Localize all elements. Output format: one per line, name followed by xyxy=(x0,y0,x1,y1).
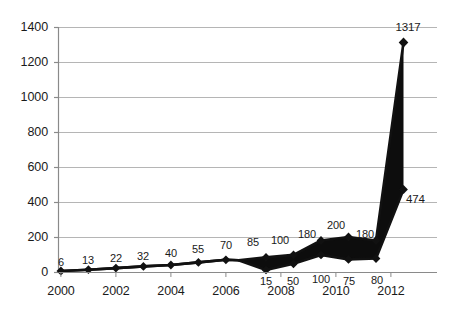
data-label-2001-upper: 13 xyxy=(74,254,102,266)
x-tick-label-2004: 2004 xyxy=(141,284,201,298)
y-tick-label-0: 0 xyxy=(4,265,48,279)
chart-plot xyxy=(0,0,458,317)
x-tick-label-2006: 2006 xyxy=(196,284,256,298)
y-tick-label-800: 800 xyxy=(4,125,48,139)
y-tick-label-200: 200 xyxy=(4,230,48,244)
y-tick-label-1200: 1200 xyxy=(4,55,48,69)
data-label-2011-lower: 80 xyxy=(363,274,391,286)
data-label-2010-lower: 75 xyxy=(335,275,363,287)
data-label-2003-upper: 32 xyxy=(129,250,157,262)
x-tick-label-2002: 2002 xyxy=(86,284,146,298)
data-label-2006-upper: 70 xyxy=(212,239,240,251)
data-label-2009-lower: 100 xyxy=(306,273,336,285)
y-axis xyxy=(54,27,59,273)
data-label-2004-upper: 40 xyxy=(157,247,185,259)
data-label-2011-upper: 180 xyxy=(350,228,380,240)
y-tick-label-1000: 1000 xyxy=(4,90,48,104)
data-label-2010-upper: 200 xyxy=(321,219,351,231)
data-label-2005-upper: 55 xyxy=(184,243,212,255)
data-label-2002-upper: 22 xyxy=(102,252,130,264)
data-label-2012-upper: 1317 xyxy=(389,21,427,33)
data-label-2008-upper: 100 xyxy=(265,234,295,246)
x-tick-label-2012: 2012 xyxy=(361,284,421,298)
y-tick-label-400: 400 xyxy=(4,195,48,209)
y-tick-label-1400: 1400 xyxy=(4,20,48,34)
y-tick-label-600: 600 xyxy=(4,160,48,174)
data-label-2012-lower: 474 xyxy=(406,193,440,205)
data-label-2009-upper: 180 xyxy=(292,228,322,240)
data-label-2007-upper: 85 xyxy=(239,236,267,248)
chart-container: 1400 1200 1000 800 600 400 200 0 2000 20… xyxy=(0,0,458,317)
data-label-2008-lower: 50 xyxy=(279,275,307,287)
data-label-2007-lower: 15 xyxy=(252,275,280,287)
data-label-2000-upper: 6 xyxy=(47,256,75,268)
x-tick-label-2000: 2000 xyxy=(31,284,91,298)
